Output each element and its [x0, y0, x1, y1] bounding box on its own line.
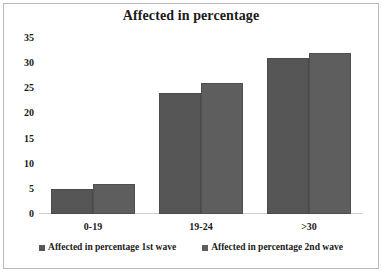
x-axis-tick-label: 19-24 — [147, 220, 255, 234]
y-axis-tick-label: 30 — [0, 58, 34, 68]
chart-title: Affected in percentage — [0, 8, 382, 24]
legend-item[interactable]: Affected in percentage 2nd wave — [202, 243, 343, 253]
y-axis-tick-label: 0 — [0, 209, 34, 219]
y-axis-tick-label: 15 — [0, 134, 34, 144]
y-axis-tick-label: 35 — [0, 33, 34, 43]
bar — [51, 189, 93, 214]
x-axis: 0-1919-24>30 — [39, 220, 363, 236]
y-axis-tick-label: 20 — [0, 108, 34, 118]
chart-container: Affected in percentage 05101520253035 0-… — [0, 0, 382, 272]
y-axis-tick-label: 25 — [0, 83, 34, 93]
y-axis-tick-label: 10 — [0, 159, 34, 169]
legend-swatch-icon — [39, 245, 45, 251]
bar — [93, 184, 135, 214]
legend-swatch-icon — [202, 245, 208, 251]
bar-group — [255, 38, 363, 214]
bar — [309, 53, 351, 214]
plot-area — [39, 38, 363, 214]
legend-label: Affected in percentage 2nd wave — [211, 243, 343, 253]
legend-label: Affected in percentage 1st wave — [48, 243, 176, 253]
bar — [201, 83, 243, 214]
y-axis: 05101520253035 — [0, 38, 34, 214]
bar — [267, 58, 309, 214]
y-axis-tick-label: 5 — [0, 184, 34, 194]
bar-group — [147, 38, 255, 214]
bar-group — [39, 38, 147, 214]
bar — [159, 93, 201, 214]
x-axis-tick-label: 0-19 — [39, 220, 147, 234]
legend-item[interactable]: Affected in percentage 1st wave — [39, 243, 176, 253]
x-axis-tick-label: >30 — [255, 220, 363, 234]
chart-legend: Affected in percentage 1st waveAffected … — [0, 243, 382, 253]
